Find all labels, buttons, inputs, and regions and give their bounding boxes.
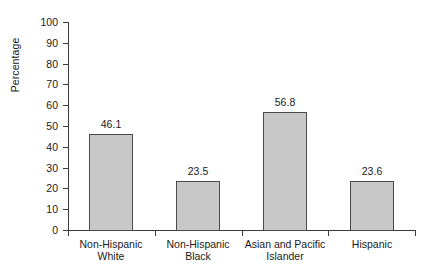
y-axis-tick: [63, 168, 68, 169]
y-axis-tick: [63, 43, 68, 44]
y-axis-tick-label: 50: [18, 121, 58, 131]
bar: [263, 112, 307, 231]
category-label-line: Hispanic: [325, 239, 419, 251]
bar: [350, 181, 394, 231]
x-axis-category-label: Asian and PacificIslander: [238, 239, 332, 262]
y-axis-tick-label: 70: [18, 79, 58, 89]
y-axis-tick-label: 30: [18, 163, 58, 173]
bar-value-label: 56.8: [250, 97, 320, 108]
y-axis-tick: [63, 188, 68, 189]
y-axis-tick: [63, 64, 68, 65]
y-axis-tick: [63, 209, 68, 210]
y-axis-tick: [63, 105, 68, 106]
category-label-line: Black: [151, 251, 245, 263]
x-axis-tick: [68, 231, 69, 236]
x-axis-tick: [155, 231, 156, 236]
y-axis-tick-label: 20: [18, 183, 58, 193]
y-axis-tick: [63, 22, 68, 23]
x-axis-tick: [415, 231, 416, 236]
x-axis-tick: [242, 231, 243, 236]
y-axis-tick: [63, 126, 68, 127]
x-axis-category-label: Hispanic: [325, 239, 419, 251]
y-axis-tick-label: 60: [18, 100, 58, 110]
category-label-line: White: [64, 251, 158, 263]
y-axis-tick-label: 40: [18, 142, 58, 152]
bar: [176, 181, 220, 231]
y-axis-tick-label: 10: [18, 204, 58, 214]
bar-value-label: 23.5: [163, 166, 233, 177]
y-axis-tick: [63, 147, 68, 148]
x-axis-category-label: Non-HispanicWhite: [64, 239, 158, 262]
category-label-line: Islander: [238, 251, 332, 263]
x-axis-category-label: Non-HispanicBlack: [151, 239, 245, 262]
y-axis-tick-label: 80: [18, 59, 58, 69]
category-label-line: Non-Hispanic: [64, 239, 158, 251]
bar-value-label: 23.6: [337, 166, 407, 177]
bar-value-label: 46.1: [76, 119, 146, 130]
y-axis-tick-label: 0: [18, 225, 58, 235]
bar: [89, 134, 133, 231]
category-label-line: Asian and Pacific: [238, 239, 332, 251]
category-label-line: Non-Hispanic: [151, 239, 245, 251]
y-axis-tick-label: 100: [18, 17, 58, 27]
y-axis-tick-label: 90: [18, 38, 58, 48]
y-axis-tick: [63, 84, 68, 85]
bar-chart: Percentage 0102030405060708090100 46.123…: [0, 0, 432, 274]
x-axis-tick: [328, 231, 329, 236]
y-axis-line: [68, 22, 69, 231]
